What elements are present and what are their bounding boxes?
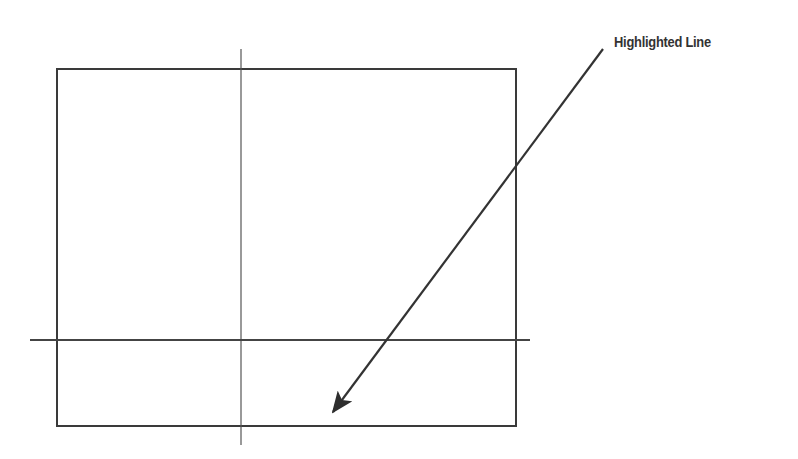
annotation-label: Highlighted Line [614,33,711,50]
outer-rectangle [57,69,516,426]
annotation-arrow [333,49,603,412]
diagram-canvas [0,0,798,459]
